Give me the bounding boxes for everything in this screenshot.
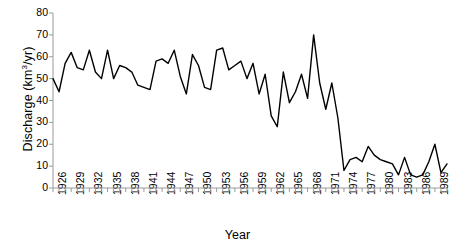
discharge-series-line — [53, 35, 447, 177]
y-axis-ticks — [49, 13, 53, 188]
plot-area — [0, 0, 471, 250]
x-axis-ticks — [53, 188, 447, 192]
x-axis-title-text: Year — [225, 228, 250, 242]
discharge-line-chart: Discharge (km3/yr) 01020304050607080 192… — [0, 0, 471, 250]
x-axis-title: Year — [0, 228, 471, 242]
